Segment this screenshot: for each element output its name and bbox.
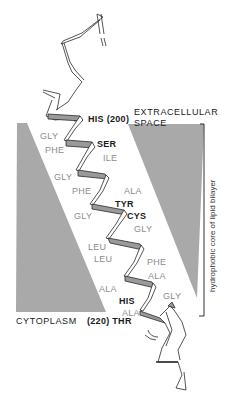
residue-his: HIS xyxy=(119,296,135,306)
residue-gly: GLY xyxy=(163,291,181,301)
cytoplasm-label: CYTOPLASM xyxy=(16,316,77,327)
residue-leu: LEU xyxy=(88,242,106,252)
residue-tyr: TYR xyxy=(115,199,134,209)
residue-ala: ALA xyxy=(99,284,117,294)
residue-gly: GLY xyxy=(134,224,152,234)
extracellular-label: EXTRACELLULAR SPACE xyxy=(134,107,218,129)
residue-leu: LEU xyxy=(94,254,112,264)
residue-phe: PHE xyxy=(147,257,166,267)
residue-ser: SER xyxy=(97,139,116,149)
bilayer-bracket-label: hydrophobic core of lipid bilayer xyxy=(208,179,217,292)
residue-phe: PHE xyxy=(72,186,91,196)
residue-ala: ALA xyxy=(148,271,166,281)
residue-his200: HIS (200) xyxy=(88,114,129,124)
residue-cys: CYS xyxy=(127,211,146,221)
residue-ile: ILE xyxy=(103,153,117,163)
residue-phe: PHE xyxy=(45,145,64,155)
residue-ala: ALA xyxy=(124,186,142,196)
residue-gly: GLY xyxy=(40,131,58,141)
residue-thr220: (220) THR xyxy=(87,316,132,326)
residue-gly: GLY xyxy=(54,172,72,182)
extracellular-loop xyxy=(43,14,106,121)
extracellular-label-line1: EXTRACELLULAR xyxy=(134,107,218,118)
extracellular-label-line2: SPACE xyxy=(134,118,218,129)
residue-gly: GLY xyxy=(74,211,92,221)
